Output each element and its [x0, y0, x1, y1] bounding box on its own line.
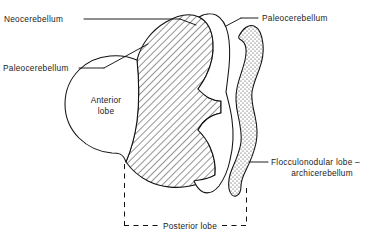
label-posterior-lobe: Posterior lobe: [163, 221, 217, 231]
neocerebellum-hatched-region: [126, 15, 221, 187]
label-anterior-lobe-line1: Anterior: [91, 95, 122, 105]
label-paleocerebellum-left: Paleocerebellum: [3, 63, 69, 73]
label-anterior-lobe-line2: lobe: [98, 106, 115, 116]
flocculonodular-stippled-region: [229, 25, 264, 196]
label-neocerebellum: Neocerebellum: [4, 14, 63, 24]
paleocerebellum-right-leader-line-tip: [226, 18, 241, 26]
label-paleocerebellum-right: Paleocerebellum: [262, 13, 328, 23]
label-flocculonodular-line2: archicerebellum: [291, 168, 353, 178]
cerebellum-diagram: Neocerebellum Paleocerebellum Paleocereb…: [0, 0, 377, 243]
label-flocculonodular-line1: Flocculonodular lobe –: [271, 157, 360, 167]
diagram-canvas: Neocerebellum Paleocerebellum Paleocereb…: [0, 0, 377, 243]
